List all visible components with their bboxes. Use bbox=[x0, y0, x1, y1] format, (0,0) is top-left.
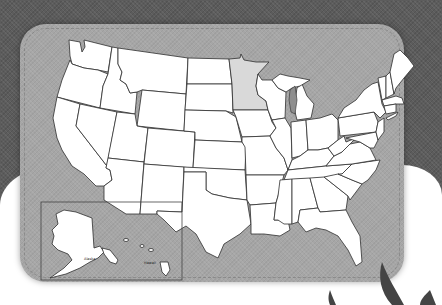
lake-michigan bbox=[289, 86, 297, 114]
state-montana[interactable] bbox=[118, 48, 188, 94]
hawaii-island-oahu bbox=[140, 245, 144, 248]
state-colorado[interactable] bbox=[144, 128, 195, 168]
state-connecticut[interactable] bbox=[384, 104, 396, 114]
us-map: Alaska Hawaii bbox=[0, 0, 442, 305]
alaska-panhandle[interactable] bbox=[102, 248, 118, 264]
state-new-mexico[interactable] bbox=[140, 164, 184, 214]
alaska-label: Alaska bbox=[84, 257, 95, 261]
state-wyoming[interactable] bbox=[137, 90, 186, 131]
hawaii-island-kauai bbox=[124, 239, 129, 242]
state-florida[interactable] bbox=[298, 208, 362, 266]
state-south-dakota[interactable] bbox=[185, 84, 233, 113]
leaf-decoration bbox=[380, 262, 404, 305]
state-maine[interactable] bbox=[390, 50, 414, 94]
state-new-york[interactable] bbox=[338, 82, 386, 118]
leaf-decoration bbox=[329, 290, 337, 305]
state-alaska[interactable] bbox=[50, 210, 104, 278]
state-hawaii[interactable] bbox=[160, 262, 170, 276]
state-arizona[interactable] bbox=[104, 158, 144, 214]
state-kansas[interactable] bbox=[193, 140, 246, 170]
hawaii-label: Hawaii bbox=[144, 261, 156, 265]
leaf-decoration bbox=[420, 290, 436, 305]
state-north-dakota[interactable] bbox=[187, 58, 232, 84]
hawaii-island-maui bbox=[149, 249, 154, 252]
